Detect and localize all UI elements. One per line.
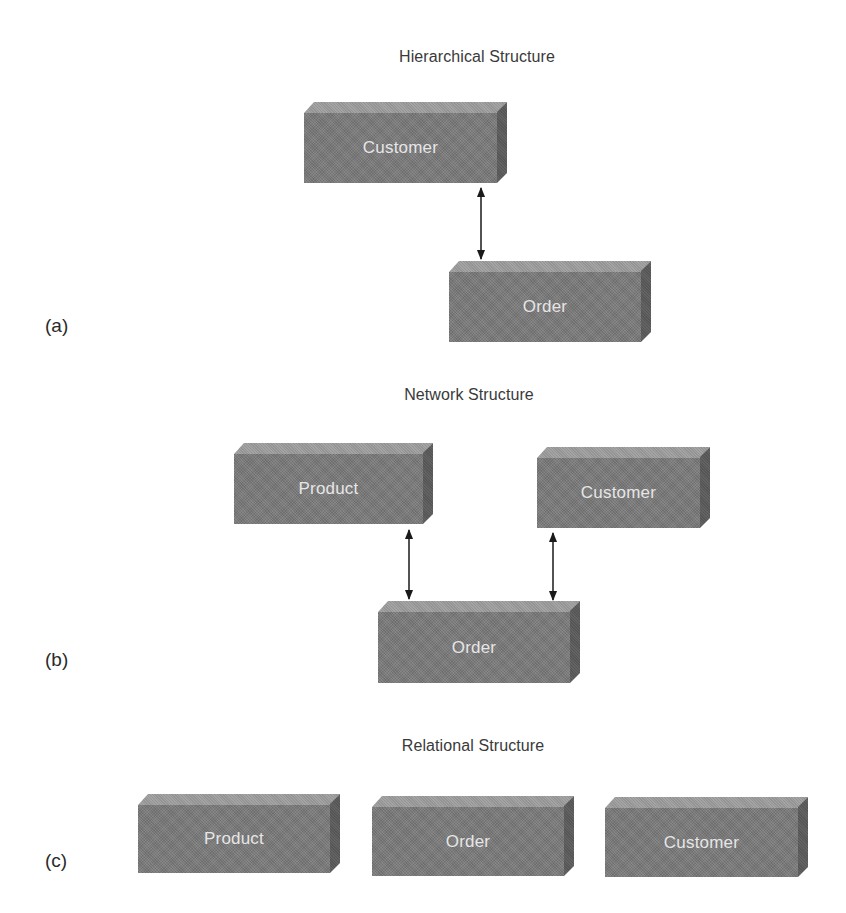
box-front-face: Order (372, 807, 564, 876)
box-front-face: Customer (605, 808, 798, 877)
entity-box-product-network: Product (234, 443, 433, 524)
box-side-face (570, 601, 580, 683)
entity-box-order-network: Order (378, 601, 580, 683)
part-label-b: (b) (45, 649, 68, 671)
box-front-face: Order (449, 272, 641, 342)
box-front-face: Customer (537, 458, 700, 528)
entity-box-customer-network: Customer (537, 447, 710, 528)
hierarchical-structure-title: Hierarchical Structure (399, 48, 555, 66)
entity-label: Product (299, 479, 359, 499)
entity-label: Order (446, 832, 490, 852)
box-top-face (605, 797, 808, 808)
network-structure-title: Network Structure (404, 386, 534, 404)
entity-label: Product (204, 829, 264, 849)
box-top-face (138, 794, 340, 805)
box-front-face: Customer (304, 113, 497, 183)
entity-label: Order (452, 638, 496, 658)
entity-label: Order (523, 297, 567, 317)
relational-structure-title: Relational Structure (402, 737, 545, 755)
box-top-face (304, 102, 507, 113)
box-side-face (497, 102, 507, 183)
box-top-face (378, 601, 580, 612)
box-side-face (700, 447, 710, 528)
box-top-face (537, 447, 710, 458)
box-side-face (641, 261, 651, 342)
entity-label: Customer (363, 138, 438, 158)
box-front-face: Product (138, 805, 330, 873)
entity-label: Customer (664, 833, 739, 853)
entity-box-order-hierarchical: Order (449, 261, 651, 342)
box-top-face (234, 443, 433, 454)
box-top-face (449, 261, 651, 272)
box-side-face (798, 797, 808, 877)
entity-label: Customer (581, 483, 656, 503)
box-top-face (372, 796, 574, 807)
box-side-face (423, 443, 433, 524)
box-side-face (564, 796, 574, 876)
entity-box-customer-hierarchical: Customer (304, 102, 507, 183)
part-label-c: (c) (45, 850, 67, 872)
part-label-a: (a) (45, 315, 68, 337)
box-front-face: Order (378, 612, 570, 683)
box-side-face (330, 794, 340, 873)
entity-box-customer-relational: Customer (605, 797, 808, 877)
entity-box-product-relational: Product (138, 794, 340, 873)
box-front-face: Product (234, 454, 423, 524)
entity-box-order-relational: Order (372, 796, 574, 876)
